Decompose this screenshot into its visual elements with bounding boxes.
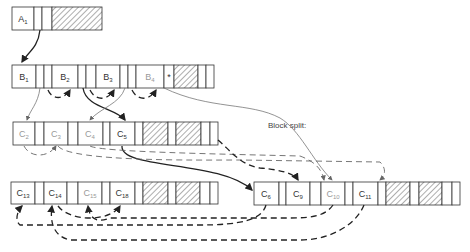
block-split-label: Block split: <box>268 121 306 130</box>
marker-asterisk: * <box>167 72 171 82</box>
pointer-arrows <box>22 30 332 190</box>
node-b: B1 B2 B3 B4 * <box>12 65 214 88</box>
node-a: A1 <box>12 7 102 30</box>
node-c-left-top: C2 C3 C4 C5 <box>13 122 218 145</box>
sibling-links <box>17 90 385 240</box>
btree-block-split-diagram: A1 B1 B2 B3 B4 * C2 <box>0 0 470 252</box>
node-c-left-bottom: C13 C14 C15 C18 <box>11 182 218 204</box>
node-c-right: C6 C9 C10 C11 <box>254 182 460 205</box>
